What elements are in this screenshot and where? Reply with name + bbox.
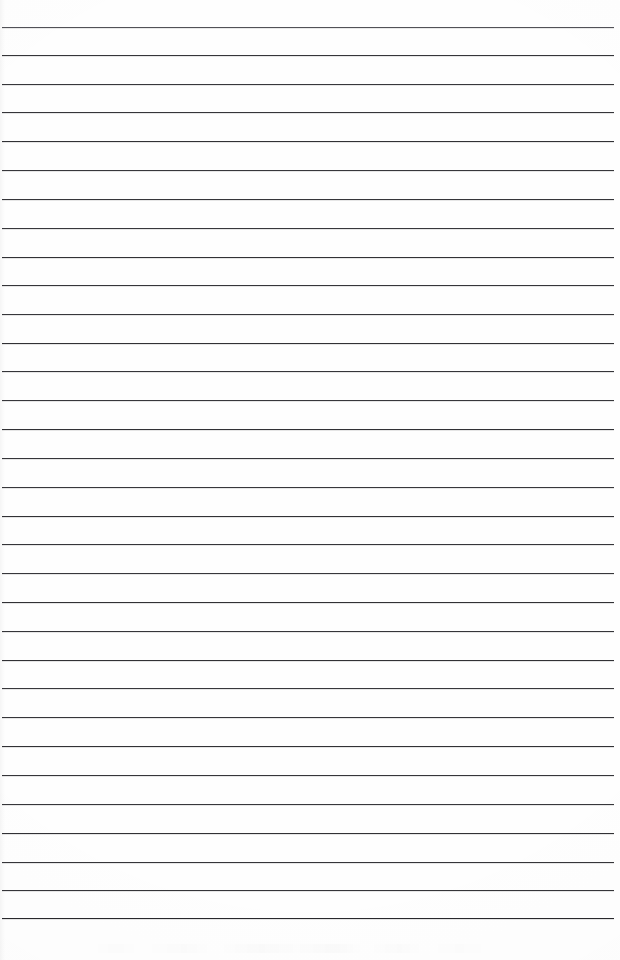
ruled-line: [2, 688, 614, 689]
lined-paper-page: [0, 0, 620, 960]
ruled-line: [2, 862, 614, 863]
ruled-line: [2, 775, 614, 776]
ruled-line: [2, 84, 614, 85]
ruled-line: [2, 487, 614, 488]
ruled-line: [2, 833, 614, 834]
ruled-line: [2, 314, 614, 315]
ruled-line: [2, 573, 614, 574]
ruled-line: [2, 27, 614, 28]
ruled-line: [2, 285, 614, 286]
ruled-line: [2, 804, 614, 805]
ruled-line: [2, 343, 614, 344]
ruled-line: [2, 429, 614, 430]
ruled-line: [2, 112, 614, 113]
ruled-line: [2, 257, 614, 258]
ruled-line: [2, 516, 614, 517]
ruled-line: [2, 400, 614, 401]
ruled-line: [2, 890, 614, 891]
ruled-line: [2, 660, 614, 661]
ruled-line: [2, 544, 614, 545]
ruled-line: [2, 371, 614, 372]
ruled-line: [2, 717, 614, 718]
ruled-line: [2, 170, 614, 171]
ruled-line: [2, 746, 614, 747]
ruled-line: [2, 141, 614, 142]
ruled-line: [2, 602, 614, 603]
ruled-line: [2, 228, 614, 229]
ruled-line: [2, 918, 614, 919]
ruled-line: [2, 199, 614, 200]
ruled-line: [2, 631, 614, 632]
ruled-line: [2, 55, 614, 56]
ruled-line-layer: [0, 0, 620, 960]
ruled-line: [2, 458, 614, 459]
